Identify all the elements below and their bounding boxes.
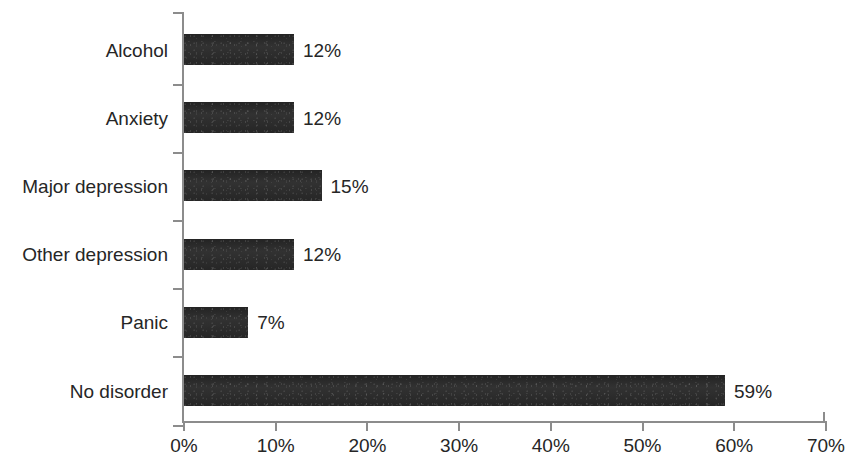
bar-chart: 0%10%20%30%40%50%60%70%Alcohol12%Anxiety… [0, 0, 858, 460]
y-axis-category-tick [173, 356, 183, 358]
x-axis-tick [733, 421, 735, 431]
category-label: Major depression [22, 177, 168, 196]
x-axis-line [182, 421, 825, 423]
plot-area: 0%10%20%30%40%50%60%70%Alcohol12%Anxiety… [0, 0, 858, 460]
y-axis-category-tick [173, 84, 183, 86]
x-axis-tick-label: 40% [532, 436, 570, 455]
y-axis-category-tick [173, 220, 183, 222]
y-axis-category-tick [173, 288, 183, 290]
y-axis-category-tick [173, 425, 183, 427]
x-axis-tick-label: 50% [623, 436, 661, 455]
x-axis-tick [825, 421, 827, 431]
bar [184, 375, 725, 406]
bar [184, 170, 322, 201]
category-label: Panic [120, 313, 168, 332]
x-axis-tick [458, 421, 460, 431]
x-axis-tick-label: 30% [440, 436, 478, 455]
x-axis-tick-label: 70% [807, 436, 845, 455]
x-axis-tick [183, 421, 185, 431]
y-axis-category-tick [173, 152, 183, 154]
category-label: Anxiety [106, 109, 168, 128]
x-axis-tick-label: 20% [348, 436, 386, 455]
bar [184, 239, 294, 270]
x-axis-tick-label: 60% [715, 436, 753, 455]
y-axis-top-cap [173, 12, 183, 14]
bar [184, 34, 294, 65]
x-axis-tick [275, 421, 277, 431]
bar-value-label: 12% [303, 41, 341, 60]
category-label: Alcohol [106, 41, 168, 60]
x-axis-tick-label: 0% [170, 436, 197, 455]
bar [184, 102, 294, 133]
bar-value-label: 7% [257, 313, 284, 332]
x-axis-tick [642, 421, 644, 431]
bar-value-label: 12% [303, 109, 341, 128]
bar-value-label: 59% [734, 382, 772, 401]
bar-value-label: 15% [331, 177, 369, 196]
category-label: Other depression [22, 245, 168, 264]
bar-value-label: 12% [303, 245, 341, 264]
bar [184, 307, 248, 338]
x-axis-tick [366, 421, 368, 431]
category-label: No disorder [70, 382, 168, 401]
x-axis-tick [550, 421, 552, 431]
y-axis-line [182, 12, 184, 423]
x-axis-tick-label: 10% [257, 436, 295, 455]
